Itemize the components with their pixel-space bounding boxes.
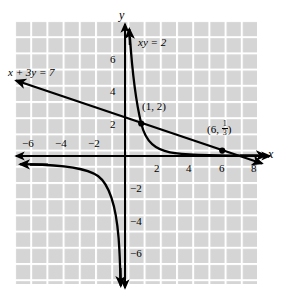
y-tick-4: 4 bbox=[110, 86, 116, 97]
intersection-label-1-2: (1, 2) bbox=[142, 101, 166, 112]
hyperbola-equation-label: xy = 2 bbox=[138, 37, 166, 48]
x-tick-minus-2: −2 bbox=[88, 138, 100, 149]
y-tick-2: 2 bbox=[110, 119, 116, 130]
x-tick-6: 6 bbox=[219, 163, 225, 174]
x-tick-minus-6: −6 bbox=[22, 138, 34, 149]
intersection-dot-6-one-third bbox=[219, 148, 225, 154]
x-axis-label: x bbox=[268, 148, 273, 160]
y-tick-minus-2: −2 bbox=[130, 183, 142, 194]
x-tick-4: 4 bbox=[186, 163, 192, 174]
intersection-label-6-one-third: (6, 13) bbox=[207, 120, 231, 138]
y-tick-minus-4: −4 bbox=[130, 216, 142, 227]
graph-figure: y x −6 −4 −2 2 4 6 8 6 4 2 −2 −4 −6 x + … bbox=[0, 0, 287, 296]
point-two-prefix: (6, bbox=[207, 123, 222, 135]
intersection-dot-1-2 bbox=[138, 120, 144, 126]
y-tick-6: 6 bbox=[110, 54, 116, 65]
x-tick-minus-4: −4 bbox=[55, 138, 67, 149]
line-equation-label: x + 3y = 7 bbox=[8, 67, 55, 78]
x-tick-8: 8 bbox=[251, 163, 257, 174]
hyperbola-branch-1-up-arrow bbox=[129, 29, 130, 45]
y-tick-minus-6: −6 bbox=[130, 248, 142, 259]
y-axis-label: y bbox=[119, 9, 124, 21]
point-two-suffix: ) bbox=[228, 123, 232, 135]
x-tick-2: 2 bbox=[154, 163, 160, 174]
